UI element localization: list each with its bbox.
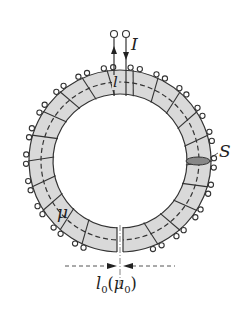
cross-section-ellipse <box>186 157 210 165</box>
mean-path-label: l <box>112 75 119 90</box>
gap-label: l0(μ0) <box>96 276 137 295</box>
terminal-right <box>123 31 130 38</box>
arrow-up-icon <box>111 46 117 54</box>
toroid-diagram: I l S μ l0(μ0) <box>0 0 240 320</box>
gap-arrow-left-icon <box>123 263 133 269</box>
gap-perm-symbol: μ <box>114 274 124 293</box>
arrow-down-icon <box>123 52 129 60</box>
gap-paren-close: ) <box>131 274 137 293</box>
permeability-label: μ <box>57 204 68 221</box>
toroid-core <box>29 70 211 252</box>
gap-arrow-right-icon <box>107 263 117 269</box>
current-label: I <box>131 36 138 53</box>
toroid-svg <box>0 0 240 320</box>
cross-section-label: S <box>219 143 231 160</box>
terminal-left <box>111 31 118 38</box>
